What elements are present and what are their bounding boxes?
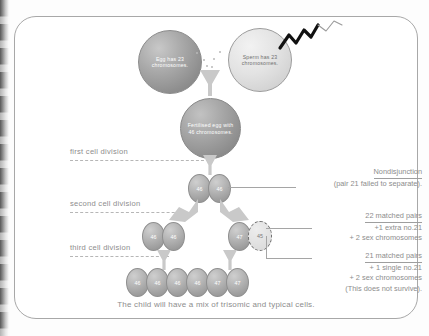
division-line-third: [70, 256, 169, 257]
final-cell-6: 47: [226, 268, 249, 297]
cell-value: 46: [195, 280, 201, 286]
page-binding-texture: [0, 0, 9, 336]
sperm-label: Sperm has 23 chromosomes.: [229, 54, 291, 67]
stage-label-second-division: second cell division: [70, 199, 140, 208]
cell-value: 46: [135, 280, 141, 286]
annotation-line: + 2 sex chromosomes: [350, 233, 423, 242]
diagram-caption: The child will have a mix of trisomic an…: [14, 300, 418, 309]
cell-value: 46: [217, 186, 223, 192]
cell-value: 46: [171, 234, 177, 240]
annotation-line: (pair 21 failed to separate).: [334, 179, 422, 188]
annotation-heading: Nondisjunction: [374, 167, 422, 179]
cell-45-monosomic: 45: [248, 221, 272, 251]
monosomic-leader-vertical: [266, 236, 267, 258]
annotation-monosomic: 21 matched pairs + 1 single no.21 + 2 se…: [282, 251, 422, 295]
cell-value: 46: [155, 280, 161, 286]
cell-46-d: 46: [162, 222, 185, 251]
annotation-line: + 2 sex chromosomes: [350, 273, 423, 282]
fertilised-egg-label: Fertilised egg with 46 chromosomes.: [181, 122, 240, 135]
cell-value: 46: [175, 280, 181, 286]
cell-value: 47: [215, 280, 221, 286]
egg-cell: Egg has 23 chromosomes.: [138, 30, 202, 94]
sperm-cell: Sperm has 23 chromosomes.: [228, 28, 292, 92]
cell-value: 46: [197, 186, 203, 192]
annotation-line: (This does not survive).: [345, 284, 422, 293]
annotation-heading: 22 matched pairs: [365, 211, 422, 223]
cell-value: 47: [235, 280, 241, 286]
annotation-nondisjunction: Nondisjunction (pair 21 failed to separa…: [256, 167, 422, 189]
chromosome-speck: [206, 65, 208, 67]
annotation-trisomic: 22 matched pairs +1 extra no.21 + 2 sex …: [282, 211, 422, 244]
division-line-first: [70, 160, 209, 161]
cell-46-b: 46: [208, 174, 231, 203]
stage-label-first-division: first cell division: [70, 147, 128, 156]
annotation-heading: 21 matched pairs: [365, 251, 422, 263]
diagram-canvas: Egg has 23 chromosomes. Sperm has 23 chr…: [0, 0, 429, 336]
fertilised-egg-cell: Fertilised egg with 46 chromosomes.: [180, 98, 241, 159]
annotation-line: +1 extra no.21: [375, 223, 422, 232]
chromosome-speck: [211, 66, 213, 68]
cell-value: 45: [257, 233, 263, 239]
division-line-second: [70, 212, 195, 213]
cell-value: 47: [237, 234, 243, 240]
cell-value: 46: [151, 234, 157, 240]
egg-label: Egg has 23 chromosomes.: [139, 56, 201, 69]
annotation-line: + 1 single no.21: [370, 263, 422, 272]
stage-label-third-division: third cell division: [70, 243, 130, 252]
